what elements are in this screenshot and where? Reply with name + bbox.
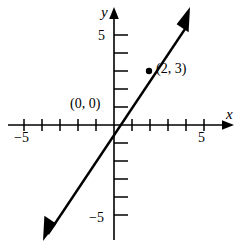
y-axis-label: y [101, 5, 108, 20]
y-axis-tick-label-5: 5 [98, 29, 105, 43]
line-arrowhead-upper [177, 7, 190, 32]
y-axis-arrowhead [109, 7, 119, 19]
x-axis-label: x [226, 107, 233, 122]
line-arrowhead-lower [43, 216, 56, 241]
y-axis-tick-label-minus-5: −5 [89, 211, 104, 225]
origin-annotation-label: (0, 0) [70, 97, 100, 111]
x-axis-tick-label-minus-5: −5 [14, 131, 29, 145]
data-point-marker [146, 68, 152, 74]
graph-canvas [0, 0, 243, 248]
x-axis-tick-label-5: 5 [198, 131, 205, 145]
y-axis [109, 7, 119, 240]
coordinate-plane-graph: y x 5 −5 −5 5 (0, 0) (2, 3) [0, 0, 243, 248]
point-annotation-label: (2, 3) [156, 62, 186, 76]
